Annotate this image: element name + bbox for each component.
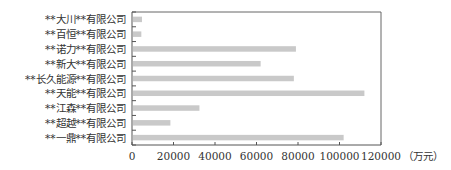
bar [133,135,344,141]
bar [133,105,199,111]
x-tick-label: 40000 [198,150,231,162]
y-category-label: **诺力**有限公司 [45,43,126,55]
bars [133,17,364,141]
y-category-label: **一鼎**有限公司 [45,132,126,144]
y-category-label: **江森**有限公司 [45,102,126,114]
bar-chart: **大川**有限公司**百恒**有限公司**诺力**有限公司**新大**有限公司… [0,0,451,170]
y-category-label: **超越**有限公司 [45,117,126,129]
bar [133,17,142,23]
bar [133,91,364,97]
bar [133,46,296,52]
x-unit-label: （万元） [403,150,443,162]
bar [133,61,261,67]
y-category-label: **新大**有限公司 [45,58,126,70]
x-tick-label: 80000 [281,150,314,162]
x-tick-label: 120000 [361,150,401,162]
bar [133,120,170,126]
y-category-label: **长久能源**有限公司 [25,73,126,85]
bar [133,31,141,36]
x-tick-label: 60000 [240,150,273,162]
y-category-label: **大川**有限公司 [45,13,126,25]
y-category-label: **百恒**有限公司 [45,28,126,40]
x-tick-label: 0 [129,150,136,162]
bar [133,76,294,82]
y-axis-labels: **大川**有限公司**百恒**有限公司**诺力**有限公司**新大**有限公司… [25,13,126,143]
chart-canvas: **大川**有限公司**百恒**有限公司**诺力**有限公司**新大**有限公司… [0,0,451,170]
x-tick-label: 100000 [319,150,359,162]
y-category-label: **天能**有限公司 [45,87,126,99]
x-tick-label: 20000 [157,150,190,162]
